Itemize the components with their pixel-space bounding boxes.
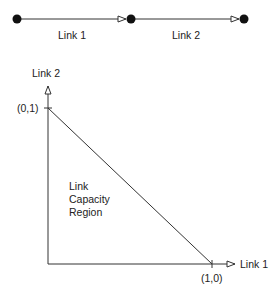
link-capacity-diagram: Link 1 Link 2 Link 2 Link 1 (0,1) (1,0) … [0, 0, 280, 302]
y-axis-label: Link 2 [32, 67, 60, 79]
node-2 [127, 15, 136, 24]
region-label-line-3: Region [69, 206, 102, 218]
x-axis-label: Link 1 [240, 258, 268, 270]
region-label-line-1: Link [69, 180, 89, 192]
link-2-label: Link 2 [172, 29, 200, 41]
y-intercept-label: (0,1) [17, 102, 39, 114]
link-1-label: Link 1 [58, 29, 86, 41]
x-intercept-label: (1,0) [201, 272, 223, 284]
capacity-plot: Link 2 Link 1 (0,1) (1,0) Link Capacity … [17, 67, 268, 284]
node-3 [240, 15, 249, 24]
node-1 [13, 15, 22, 24]
network-chain: Link 1 Link 2 [13, 15, 249, 42]
region-label-line-2: Capacity [69, 193, 111, 205]
